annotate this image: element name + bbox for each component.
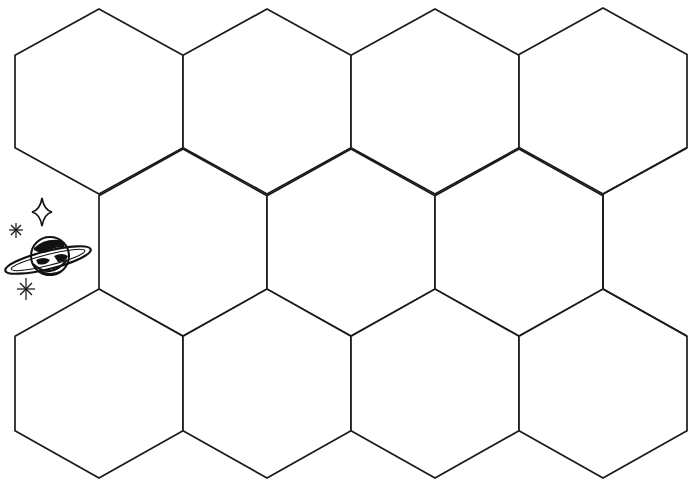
middle-row — [99, 149, 603, 336]
planet-clipart — [3, 198, 93, 300]
hexagon-grid — [15, 8, 687, 478]
four-point-star-icon — [32, 198, 52, 226]
sparkle-icon — [9, 223, 23, 238]
ringed-planet-icon — [3, 237, 93, 279]
hexagon-grid-sheet — [0, 0, 695, 485]
sparkle-bottom-icon — [17, 278, 35, 300]
